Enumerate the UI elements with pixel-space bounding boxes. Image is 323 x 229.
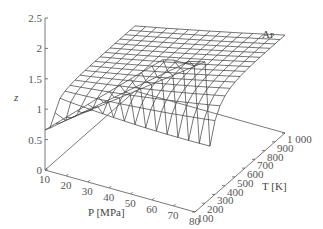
z-axis-label: z bbox=[13, 91, 19, 103]
p-tick bbox=[131, 192, 133, 194]
p-tick bbox=[174, 204, 176, 206]
mesh-line-const-t bbox=[120, 39, 270, 48]
p-axis-label: P [MPa] bbox=[88, 206, 125, 218]
mesh-line-const-t bbox=[125, 35, 275, 44]
p-tick-label: 30 bbox=[82, 185, 94, 197]
mesh-line-const-t bbox=[65, 91, 215, 121]
mesh-line-const-t bbox=[110, 48, 260, 57]
z-tick-label: 2.5 bbox=[28, 12, 42, 24]
tick-labels: 00.511.522.51020304050607080100200300400… bbox=[28, 12, 312, 227]
mesh-line-const-t bbox=[85, 71, 235, 83]
surface-chart: 00.511.522.51020304050607080100200300400… bbox=[0, 0, 323, 229]
mesh-line-const-p bbox=[88, 29, 178, 114]
mesh-line-const-t bbox=[70, 85, 220, 106]
mesh-line-const-t bbox=[90, 66, 240, 77]
mesh-line-const-t bbox=[130, 30, 280, 39]
annotation-ar: Ar bbox=[262, 28, 274, 40]
z-tick-label: 1.5 bbox=[28, 73, 42, 85]
z-tick-label: 1 bbox=[37, 103, 43, 115]
p-tick-label: 40 bbox=[103, 191, 115, 203]
t-axis-line bbox=[195, 133, 285, 212]
p-tick-label: 70 bbox=[168, 209, 180, 221]
p-tick bbox=[109, 186, 111, 188]
mesh-line-const-p bbox=[45, 26, 135, 130]
z-tick-label: 0.5 bbox=[28, 134, 42, 146]
p-tick-label: 60 bbox=[146, 203, 158, 215]
mesh-line-const-t bbox=[95, 61, 245, 71]
surface-mesh bbox=[45, 26, 285, 146]
mesh-line-const-p bbox=[163, 34, 253, 138]
mesh-line-const-p bbox=[77, 28, 167, 112]
p-tick-label: 20 bbox=[60, 179, 72, 191]
p-tick-label: 50 bbox=[125, 197, 137, 209]
t-axis-label: T [K] bbox=[262, 180, 287, 192]
mesh-line-const-p bbox=[174, 34, 264, 140]
p-tick bbox=[152, 198, 154, 200]
p-tick bbox=[88, 180, 90, 182]
mesh-line-const-t bbox=[115, 44, 265, 53]
p-tick-label: 10 bbox=[39, 173, 51, 185]
t-tick-label: 1 000 bbox=[287, 133, 312, 145]
mesh-line-const-t bbox=[105, 52, 255, 61]
p-tick bbox=[66, 174, 68, 176]
z-tick-label: 2 bbox=[37, 42, 43, 54]
